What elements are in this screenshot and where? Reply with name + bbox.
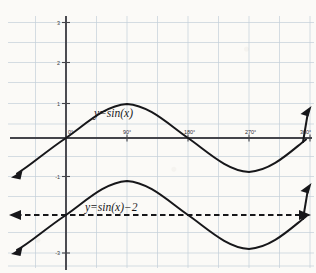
left-arrow-icon: [11, 171, 23, 180]
curve-sin-x-minus-2: [11, 181, 312, 256]
y-tick-label: 1: [57, 101, 60, 107]
lower-curve-label: y=sin(x)−2: [84, 201, 138, 214]
midline-y-minus-2: [9, 210, 311, 220]
x-tick-label: 270°: [245, 129, 256, 135]
left-arrow-icon: [11, 247, 23, 256]
x-tick-label: 180°: [184, 129, 195, 135]
left-arrow-icon: [9, 210, 21, 220]
y-tick-label: -1: [55, 174, 60, 180]
curve-sin-x: [11, 104, 312, 180]
y-tick-label: 3: [57, 20, 60, 26]
sine-graph-page: { "chart_data": { "type": "line", "title…: [0, 0, 316, 273]
y-tick-label: -3: [55, 250, 60, 256]
sine-graph-figure: 3 2 1 -1 -3 0° 90° 180° 270° 360°: [0, 0, 316, 273]
axes: [10, 16, 312, 270]
grid-lines: [8, 16, 314, 268]
upper-curve-label: y=sin(x): [93, 107, 133, 120]
y-tick-label: 2: [57, 60, 60, 66]
x-tick-label: 90°: [123, 129, 131, 135]
x-axis-tick-labels: 0° 90° 180° 270° 360°: [68, 129, 311, 135]
